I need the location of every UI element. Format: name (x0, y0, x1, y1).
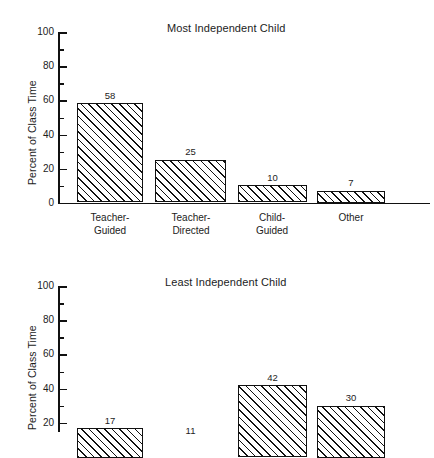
chart-title-bottom: Least Independent Child (165, 276, 287, 288)
x-category-line-1: Teacher- (72, 212, 148, 225)
y-major-tick-100 (59, 32, 67, 34)
y-axis-label-bottom: Percent of Class Time (26, 325, 38, 430)
y-major-tick-20 (59, 169, 67, 171)
x-category-label-teacher-directed: Teacher- Directed (152, 212, 230, 237)
x-category-line-1: Teacher- (152, 212, 230, 225)
bar-value-teacher-guided-top: 58 (77, 90, 143, 101)
y-tick-label-80: 80 (24, 60, 54, 71)
bar-teacher-directed-top (155, 160, 226, 203)
y-minor-tick-90-bottom (59, 303, 64, 305)
bar-value-other-bottom: 30 (317, 392, 385, 403)
bar-child-guided-top (238, 185, 307, 202)
bar-other-top (317, 191, 385, 203)
x-category-line-2: Guided (72, 225, 148, 238)
x-category-line-1: Other (313, 212, 389, 225)
y-tick-label-0: 0 (24, 197, 54, 208)
y-minor-tick-10 (59, 186, 64, 188)
x-category-line-1: Child- (234, 212, 310, 225)
y-major-tick-40 (59, 135, 67, 137)
bar-value-teacher-directed-top: 25 (155, 146, 226, 157)
bar-other-bottom (317, 406, 385, 458)
bar-value-child-guided-top: 10 (238, 172, 307, 183)
bar-teacher-guided-bottom (77, 428, 143, 458)
x-category-line-2: Guided (234, 225, 310, 238)
chart-panel-least-independent: Least Independent Child Percent of Class… (0, 255, 434, 432)
bar-value-other-top: 7 (317, 177, 385, 188)
bar-child-guided-bottom (238, 385, 307, 457)
y-tick-label-100-bottom: 100 (24, 280, 54, 291)
y-tick-label-40-bottom: 40 (24, 383, 54, 394)
y-minor-tick-30-bottom (59, 406, 64, 408)
y-major-tick-20-bottom (59, 423, 67, 425)
y-minor-tick-90 (59, 49, 64, 51)
y-tick-label-40: 40 (24, 129, 54, 140)
bar-teacher-guided-top (77, 103, 143, 202)
y-tick-label-100: 100 (24, 26, 54, 37)
y-major-tick-40-bottom (59, 389, 67, 391)
bar-value-child-guided-bottom: 42 (238, 372, 307, 383)
y-major-tick-0 (59, 203, 67, 205)
y-tick-label-60-bottom: 60 (24, 348, 54, 359)
y-major-tick-80 (59, 66, 67, 68)
y-tick-label-80-bottom: 80 (24, 314, 54, 325)
y-tick-label-20-bottom: 20 (24, 417, 54, 428)
bar-value-teacher-directed-bottom: 11 (155, 425, 226, 436)
x-category-label-child-guided: Child- Guided (234, 212, 310, 237)
y-axis-line-bottom (58, 286, 60, 432)
x-category-line-2: Directed (152, 225, 230, 238)
y-tick-label-60: 60 (24, 94, 54, 105)
x-category-label-other: Other (313, 212, 389, 225)
y-minor-tick-70 (59, 83, 64, 85)
y-major-tick-100-bottom (59, 286, 67, 288)
y-major-tick-60 (59, 100, 67, 102)
y-minor-tick-50 (59, 118, 64, 120)
chart-title-top: Most Independent Child (167, 22, 285, 34)
y-minor-tick-50-bottom (59, 372, 64, 374)
y-major-tick-60-bottom (59, 354, 67, 356)
x-axis-line-top (58, 203, 430, 205)
y-minor-tick-70-bottom (59, 337, 64, 339)
chart-panel-most-independent: Most Independent Child Percent of Class … (0, 0, 434, 250)
y-minor-tick-30 (59, 152, 64, 154)
y-tick-label-20: 20 (24, 163, 54, 174)
bar-value-teacher-guided-bottom: 17 (77, 415, 143, 426)
x-category-label-teacher-guided: Teacher- Guided (72, 212, 148, 237)
y-major-tick-80-bottom (59, 320, 67, 322)
